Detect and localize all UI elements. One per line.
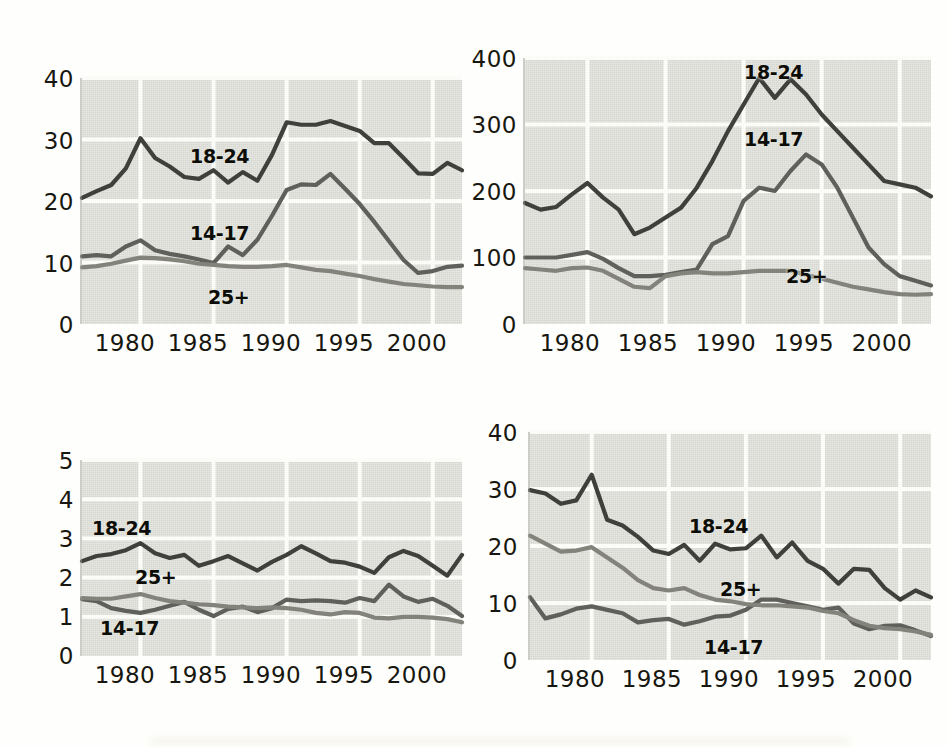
series-label-25-plus: 25+ [720,578,761,600]
series-label-14-17: 14-17 [744,128,803,150]
plot-lines-bottom-right [474,374,948,747]
series-label-18-24: 18-24 [190,145,249,167]
series-label-18-24: 18-24 [744,61,803,83]
series-label-18-24: 18-24 [92,517,151,539]
series-label-14-17: 14-17 [100,617,159,639]
series-label-25-plus: 25+ [208,286,249,308]
chart-panel-top-right: 400 300 200 100 0 1980 1985 1990 1995 20… [474,0,948,374]
series-label-25-plus: 25+ [786,265,827,287]
chart-panel-bottom-left: 5 4 3 2 1 0 1980 1985 1990 1995 2000 18-… [0,374,474,747]
plot-lines-top-left [0,0,474,374]
series-label-25-plus: 25+ [135,566,176,588]
plot-lines-top-right [474,0,948,374]
series-label-18-24: 18-24 [689,515,748,537]
chart-panel-bottom-right: 40 30 20 10 0 1980 1985 1990 1995 2000 1… [474,374,948,747]
series-label-14-17: 14-17 [190,222,249,244]
plot-lines-bottom-left [0,374,474,747]
series-label-14-17: 14-17 [704,636,763,658]
chart-panel-top-left: 40 30 20 10 0 1980 1985 1990 1995 2000 1… [0,0,474,374]
